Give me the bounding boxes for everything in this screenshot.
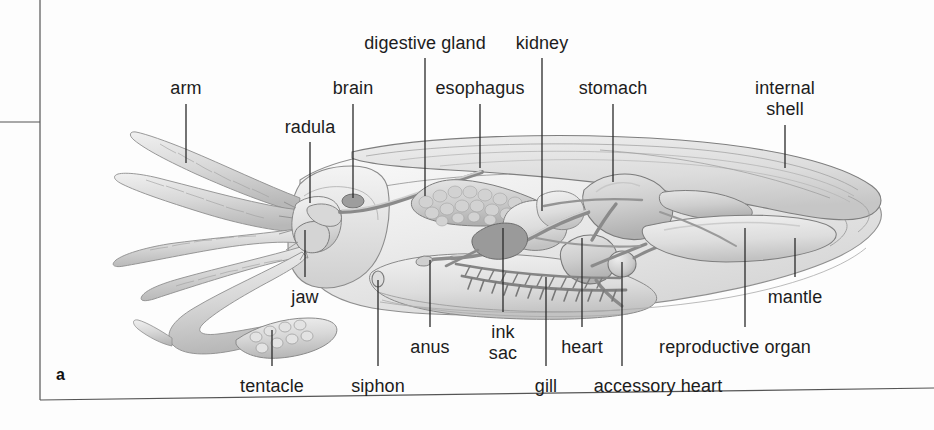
label-radula: radula: [285, 117, 336, 138]
label-mantle: mantle: [768, 287, 823, 308]
label-heart: heart: [561, 337, 603, 358]
figure-frame: [0, 0, 934, 430]
label-internal-shell: internal shell: [755, 78, 815, 120]
label-accessory-heart: accessory heart: [594, 376, 723, 397]
label-reproductive-organ: reproductive organ: [659, 337, 811, 358]
label-siphon: siphon: [351, 376, 405, 397]
label-arm: arm: [170, 78, 201, 99]
label-stomach: stomach: [579, 78, 648, 99]
label-gill: gill: [535, 376, 557, 397]
frame-bottom-rule: [40, 388, 934, 400]
label-tentacle: tentacle: [240, 376, 304, 397]
label-esophagus: esophagus: [436, 78, 525, 99]
label-jaw: jaw: [291, 287, 318, 308]
label-brain: brain: [333, 78, 374, 99]
label-kidney: kidney: [516, 33, 569, 54]
label-digestive-gland: digestive gland: [364, 33, 486, 54]
figure-canvas: armradulabraindigestive glandesophaguski…: [0, 0, 934, 430]
panel-identifier: a: [56, 366, 65, 384]
label-anus: anus: [410, 337, 449, 358]
label-ink-sac: ink sac: [489, 322, 517, 364]
